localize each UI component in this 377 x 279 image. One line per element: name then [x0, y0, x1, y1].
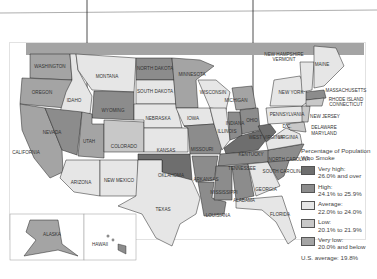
swatch-icon [301, 166, 315, 175]
legend-range: 20.1% to 21.9% [318, 226, 362, 233]
label-oregon: OREGON [32, 90, 52, 95]
legend-label: Very low: [318, 236, 343, 243]
label-iowa: IOWA [187, 116, 200, 121]
label-idaho: IDAHO [67, 98, 82, 103]
label-california: CALIFORNIA [12, 150, 41, 155]
state-vermont-nh [300, 62, 314, 92]
label-pennsylvania: PENNSYLVANIA [270, 112, 305, 117]
label-nevada: NEVADA [43, 130, 62, 135]
label-alaska: ALASKA [43, 232, 62, 237]
label-georgia: GEORGIA [255, 187, 277, 192]
legend-label: Average: [318, 200, 343, 207]
canada-region [26, 43, 364, 55]
state-wisconsin [198, 80, 230, 110]
label-louisiana: LOUISIANA [206, 213, 231, 218]
state-wyoming [92, 91, 134, 120]
label-texas: TEXAS [155, 207, 170, 212]
label-delaware: DELAWARE [311, 125, 336, 130]
legend-item-very-high: Very high:26.0% and over [301, 165, 371, 180]
legend-item-very-low: Very low:20.0% and below [301, 236, 371, 251]
legend-range: 24.1% to 25.9% [318, 190, 362, 197]
state-arizona [60, 160, 100, 196]
legend-range: 26.0% and over [318, 172, 361, 179]
label-washington: WASHINGTON [34, 64, 65, 69]
label-new-jersey: NEW JERSEY [310, 114, 340, 119]
label-wisconsin: WISCONSIN [200, 90, 227, 95]
map-legend: Percentage of Population Who Smoke Very … [301, 147, 371, 261]
label-hawaii: HAWAII [92, 242, 108, 247]
swatch-icon [301, 219, 315, 228]
state-florida [236, 196, 296, 244]
label-florida: FLORIDA [270, 212, 291, 217]
label-kansas: KANSAS [157, 148, 176, 153]
label-arizona: ARIZONA [71, 180, 92, 185]
label-tennessee: TENNESSEE [228, 166, 256, 171]
label-connecticut: CONNECTICUT [329, 102, 363, 107]
label-ohio: OHIO [246, 118, 258, 123]
label-massachusetts: MASSACHUSETTS [326, 88, 367, 93]
label-maryland: MARYLAND [311, 131, 337, 136]
label-wyoming: WYOMING [102, 108, 125, 113]
label-michigan: MICHIGAN [225, 98, 248, 103]
label-alabama: ALABAMA [233, 198, 256, 203]
label-mississippi: MISSISSIPPI [210, 190, 237, 195]
label-minnesota: MINNESOTA [179, 72, 207, 77]
label-new-york: NEW YORK [279, 90, 305, 95]
label-maine: MAINE [315, 62, 330, 67]
label-montana: MONTANA [96, 74, 120, 79]
legend-label: Very high: [318, 165, 346, 172]
label-west-virginia: WEST VIRGINIA [249, 135, 285, 140]
us-average: U.S. average: 19.8% [301, 254, 371, 261]
callout-horizontal-line [0, 10, 377, 13]
label-illinois: ILLINOIS [218, 129, 237, 134]
label-arkansas: ARKANSAS [193, 177, 218, 182]
swatch-icon [301, 201, 315, 210]
label-indiana: INDIANA [226, 121, 246, 126]
label-dc: D.C. [282, 124, 291, 129]
legend-label: High: [318, 183, 332, 190]
legend-item-low: Low:20.1% to 21.9% [301, 218, 371, 233]
label-south-carolina: SOUTH CAROLINA [263, 169, 305, 174]
legend-item-high: High:24.1% to 25.9% [301, 183, 371, 198]
hawaii-inset [84, 214, 136, 260]
label-oklahoma: OKLAHOMA [158, 173, 185, 178]
label-kentucky: KENTUCKY [238, 152, 263, 157]
label-south-dakota: SOUTH DAKOTA [137, 89, 174, 94]
label-colorado: COLORADO [111, 144, 138, 149]
legend-title: Percentage of Population Who Smoke [301, 147, 371, 162]
label-north-dakota: NORTH DAKOTA [137, 66, 174, 71]
state-utah [78, 112, 104, 158]
label-vermont: VERMONT [273, 57, 296, 62]
legend-range: 20.0% and below [318, 243, 365, 250]
swatch-icon [301, 237, 315, 246]
legend-label: Low: [318, 218, 331, 225]
label-nebraska: NEBRASKA [145, 116, 171, 121]
label-new-mexico: NEW MEXICO [104, 178, 135, 183]
legend-item-average: Average:22.0% to 24.0% [301, 200, 371, 215]
swatch-icon [301, 184, 315, 193]
label-utah: UTAH [83, 139, 95, 144]
legend-range: 22.0% to 24.0% [318, 208, 362, 215]
label-missouri: MISSOURI [191, 147, 214, 152]
